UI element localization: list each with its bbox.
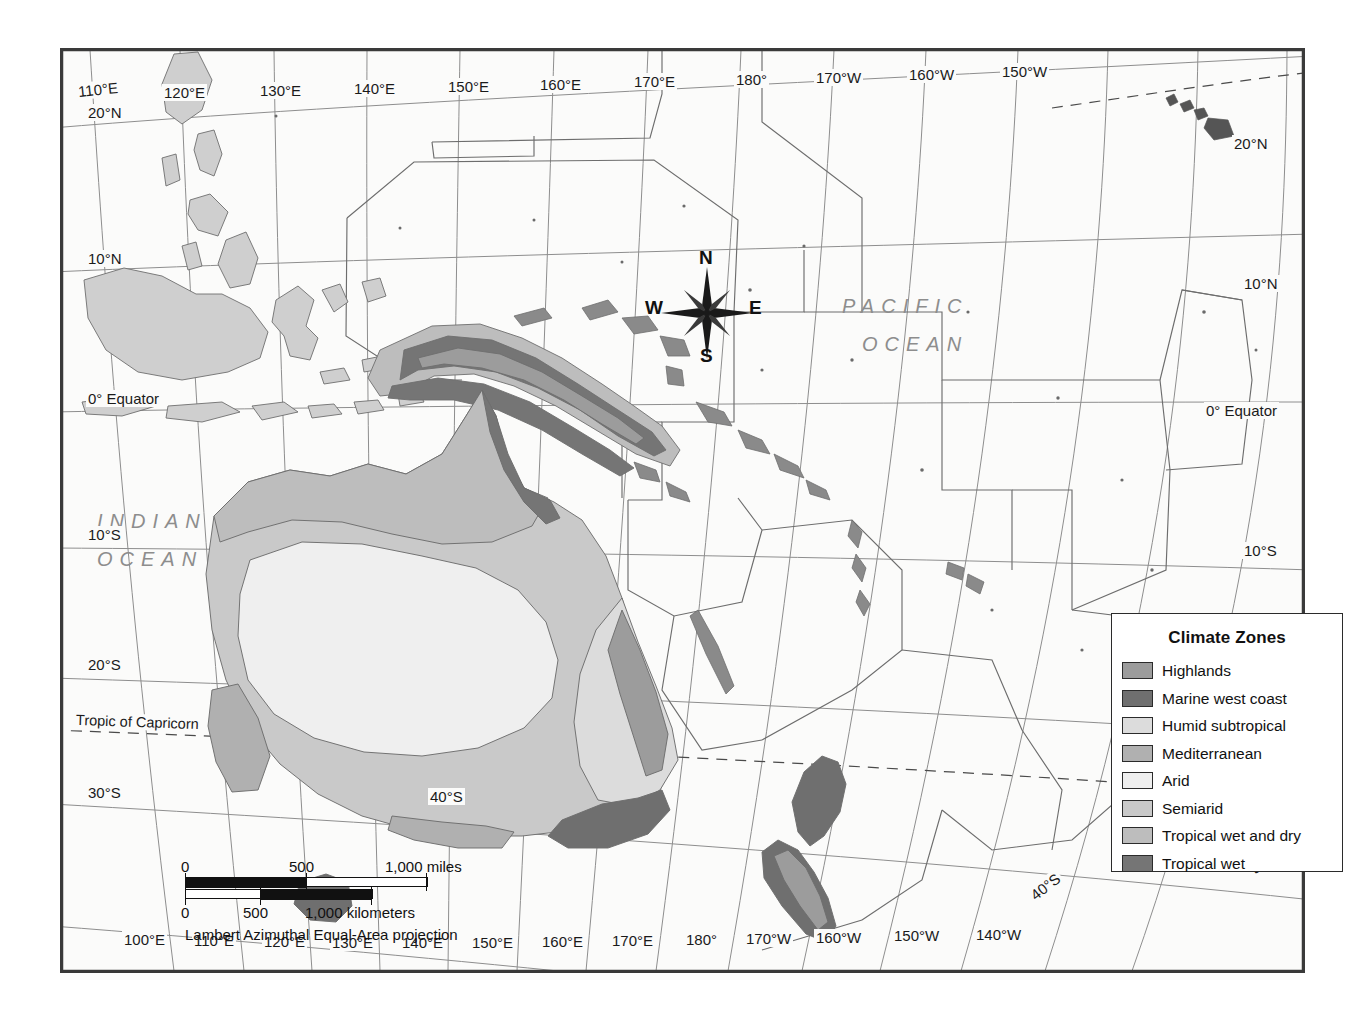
- legend-swatch-marine-west-coast: [1122, 690, 1153, 707]
- legend-item-mediterranean[interactable]: Mediterranean: [1112, 740, 1342, 768]
- compass-east-label: E: [749, 297, 762, 319]
- lon-label-bottom-12: 140°W: [974, 926, 1023, 943]
- legend-item-semiarid[interactable]: Semiarid: [1112, 795, 1342, 823]
- lat-label-left-5: 30°S: [86, 784, 123, 801]
- map-legend[interactable]: Climate Zones Highlands Marine west coas…: [1111, 613, 1343, 872]
- lat-label-right-1: 10°N: [1242, 275, 1280, 292]
- legend-item-tropical-wet-and-dry[interactable]: Tropical wet and dry: [1112, 822, 1342, 850]
- landmass-new-zealand: [762, 756, 846, 942]
- lon-label-top-7: 180°: [734, 71, 769, 88]
- lat-label-left-1: 10°N: [86, 250, 124, 267]
- lat-label-left-4: 20°S: [86, 656, 123, 673]
- pacific-ocean-label-line1: PACIFIC: [842, 295, 968, 318]
- legend-label-arid: Arid: [1162, 773, 1190, 789]
- scale-km-labels: 0 500 1,000 kilometers: [185, 904, 485, 924]
- legend-label-tropical-wet: Tropical wet: [1162, 856, 1245, 872]
- lon-label-top-6: 170°E: [632, 73, 677, 90]
- legend-item-humid-subtropical[interactable]: Humid subtropical: [1112, 712, 1342, 740]
- scale-miles-labels: 0 500 1,000 miles: [185, 858, 485, 877]
- legend-item-arid[interactable]: Arid: [1112, 767, 1342, 795]
- indian-ocean-label-line2: OCEAN: [97, 548, 203, 571]
- legend-swatch-arid: [1122, 772, 1153, 789]
- scale-miles-tick-1: 500: [289, 858, 314, 875]
- legend-label-semiarid: Semiarid: [1162, 801, 1223, 817]
- lon-label-bottom-10: 160°W: [814, 929, 863, 946]
- legend-label-highlands: Highlands: [1162, 663, 1231, 679]
- landmass-australia: [206, 390, 678, 922]
- lat-label-right-2: 0° Equator: [1204, 402, 1279, 419]
- pacific-ocean-label-line2: OCEAN: [862, 333, 968, 356]
- scale-km-tick-1: 500: [243, 904, 268, 921]
- legend-swatch-highlands: [1122, 662, 1153, 679]
- lon-label-bottom-0: 100°E: [122, 931, 167, 948]
- lon-label-top-4: 150°E: [446, 78, 491, 95]
- lon-label-top-3: 140°E: [352, 80, 397, 97]
- scale-miles-tick-2: 1,000 miles: [385, 858, 462, 875]
- lon-label-bottom-9: 170°W: [744, 930, 793, 947]
- compass-south-label: S: [700, 345, 713, 367]
- lat-label-left-0: 20°N: [86, 104, 124, 121]
- legend-item-highlands[interactable]: Highlands: [1112, 657, 1342, 685]
- lon-label-bottom-7: 170°E: [610, 932, 655, 949]
- legend-label-marine-west-coast: Marine west coast: [1162, 691, 1287, 707]
- legend-label-tropical-wet-and-dry: Tropical wet and dry: [1162, 828, 1301, 844]
- lat-label-right-3: 10°S: [1242, 542, 1279, 559]
- legend-item-marine-west-coast[interactable]: Marine west coast: [1112, 685, 1342, 713]
- lon-label-bottom-8: 180°: [684, 931, 719, 948]
- scale-km-tick-0: 0: [181, 904, 189, 921]
- legend-swatch-tropical-wet-and-dry: [1122, 827, 1153, 844]
- compass-rose: N S E W: [647, 253, 767, 371]
- lon-label-top-9: 160°W: [907, 66, 956, 83]
- lon-label-top-2: 130°E: [258, 82, 303, 99]
- legend-swatch-tropical-wet: [1122, 855, 1153, 872]
- map-page: PACIFIC OCEAN INDIAN OCEAN 110°E 120°E 1…: [0, 0, 1366, 1023]
- lon-label-bottom-11: 150°W: [892, 927, 941, 944]
- lat-label-left-2: 0° Equator: [86, 390, 161, 407]
- legend-item-tropical-wet[interactable]: Tropical wet: [1112, 850, 1342, 878]
- legend-title: Climate Zones: [1112, 628, 1342, 648]
- scale-bar: 0 500 1,000 miles 0 500: [185, 858, 485, 943]
- lat-label-right-0: 20°N: [1232, 135, 1270, 152]
- projection-note: Lambert Azimuthal Equal-Area projection: [185, 926, 485, 943]
- lon-label-top-10: 150°W: [1000, 63, 1049, 80]
- legend-swatch-semiarid: [1122, 800, 1153, 817]
- compass-north-label: N: [699, 247, 713, 269]
- landmass-hawaii: [1166, 94, 1234, 140]
- compass-west-label: W: [645, 297, 663, 319]
- scale-bar-graphic: [185, 877, 428, 902]
- legend-label-mediterranean: Mediterranean: [1162, 746, 1262, 762]
- scale-km-tick-2: 1,000 kilometers: [305, 904, 415, 921]
- legend-swatch-humid-subtropical: [1122, 717, 1153, 734]
- lat-label-left-3: 10°S: [86, 526, 123, 543]
- lat-label-interior-40s: 40°S: [428, 788, 465, 805]
- legend-swatch-mediterranean: [1122, 745, 1153, 762]
- lon-label-bottom-6: 160°E: [540, 933, 585, 950]
- lon-label-top-5: 160°E: [538, 76, 583, 93]
- lon-label-top-8: 170°W: [814, 69, 863, 86]
- lon-label-top-1: 120°E: [162, 84, 207, 101]
- legend-label-humid-subtropical: Humid subtropical: [1162, 718, 1286, 734]
